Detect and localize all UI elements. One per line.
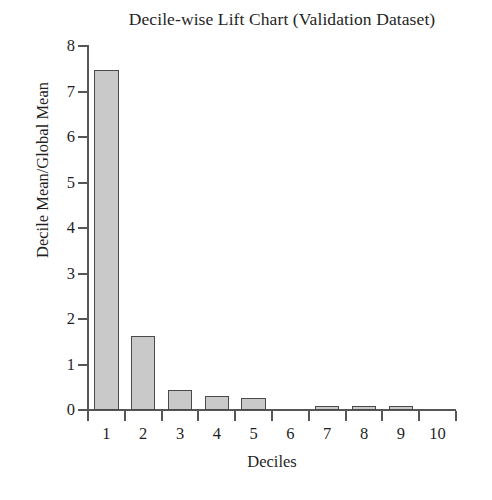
x-axis-tick	[308, 411, 310, 421]
x-axis-tick	[197, 411, 199, 421]
y-axis-tick-label: 6	[67, 129, 75, 146]
y-axis-tick-label: 2	[67, 311, 75, 328]
x-axis-tick-label: 4	[213, 426, 221, 443]
y-axis-tick	[78, 227, 87, 229]
y-axis-tick	[78, 273, 87, 275]
x-axis-tick-label: 3	[176, 426, 184, 443]
y-axis-tick-label: 4	[67, 220, 75, 237]
y-axis-tick	[78, 364, 87, 366]
y-axis-tick-label: 7	[67, 83, 75, 100]
lift-chart-figure: Decile-wise Lift Chart (Validation Datas…	[0, 0, 492, 500]
bar	[168, 390, 192, 410]
x-axis-tick-label: 9	[397, 426, 405, 443]
x-axis-tick	[161, 411, 163, 421]
x-axis-tick	[234, 411, 236, 421]
x-axis-label: Deciles	[88, 452, 456, 472]
x-axis-tick	[455, 411, 457, 421]
x-axis-tick-label: 8	[360, 426, 368, 443]
y-axis-tick	[78, 91, 87, 93]
y-axis-tick-label: 5	[67, 174, 75, 191]
x-axis-tick	[124, 411, 126, 421]
x-axis-tick-label: 10	[429, 426, 446, 443]
chart-title: Decile-wise Lift Chart (Validation Datas…	[0, 8, 492, 30]
y-axis-tick	[78, 409, 87, 411]
y-axis-tick-label: 8	[67, 38, 75, 55]
x-axis-tick	[87, 411, 89, 421]
x-axis-tick-label: 6	[286, 426, 294, 443]
x-axis-tick-label: 1	[102, 426, 110, 443]
y-axis-tick	[78, 45, 87, 47]
x-axis-tick-label: 7	[323, 426, 331, 443]
y-axis-tick	[78, 318, 87, 320]
x-axis-tick-label: 5	[249, 426, 257, 443]
x-axis-tick	[381, 411, 383, 421]
x-axis-tick	[345, 411, 347, 421]
y-axis-label: Decile Mean/Global Mean	[30, 0, 56, 370]
bar	[315, 406, 339, 410]
bar	[94, 70, 118, 410]
bar	[241, 398, 265, 410]
bar	[389, 406, 413, 410]
plot-area: 01234567812345678910	[88, 46, 456, 410]
x-axis-tick	[418, 411, 420, 421]
bar	[352, 406, 376, 410]
y-axis-tick-label: 3	[67, 265, 75, 282]
y-axis-tick-label: 1	[67, 356, 75, 373]
y-axis-tick	[78, 182, 87, 184]
y-axis-tick-label: 0	[67, 402, 75, 419]
x-axis-tick-label: 2	[139, 426, 147, 443]
bar	[131, 336, 155, 410]
y-axis-tick	[78, 136, 87, 138]
x-axis-tick	[271, 411, 273, 421]
bar	[205, 396, 229, 410]
